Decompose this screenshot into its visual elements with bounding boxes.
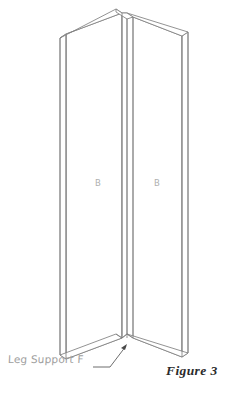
callout-leader-group — [93, 344, 127, 367]
callout-arrowhead-icon — [121, 344, 127, 350]
callout-label-leg-support: Leg Support F — [8, 353, 84, 365]
right-panel-edge-thickness-face — [182, 32, 188, 357]
fold-inner-strip-face — [122, 13, 127, 338]
panel-label-left-b: B — [95, 178, 101, 188]
figure-illustration: B B Leg Support F Figure 3 — [0, 0, 229, 401]
panel-label-right-b: B — [154, 178, 160, 188]
callout-leader-line — [93, 346, 126, 367]
left-panel-group — [60, 9, 122, 359]
leg-support-isometric-drawing: B B — [0, 0, 229, 401]
figure-caption: Figure 3 — [166, 363, 218, 379]
left-panel-edge-thickness-face — [60, 34, 66, 359]
